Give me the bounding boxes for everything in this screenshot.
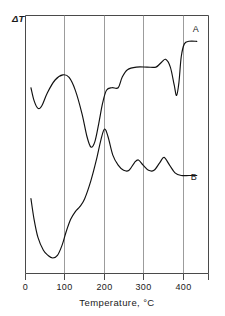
x-tick-label-400: 400 [175,282,191,292]
curve-label-b: B [191,172,197,182]
curve-a-path [31,41,197,147]
plot-canvas: ΔT 0 100 200 300 400 Temperature, °C A B [0,0,225,316]
grid-lines [65,16,184,274]
curve-label-a: A [193,24,199,34]
y-axis-label: ΔT [11,13,26,24]
dta-thermogram-figure: ΔT 0 100 200 300 400 Temperature, °C A B [0,0,225,316]
x-axis-ticks [26,274,209,281]
curve-b-path [31,129,197,258]
x-tick-label-300: 300 [135,282,151,292]
x-axis-title: Temperature, °C [79,297,154,308]
x-tick-label-100: 100 [56,282,72,292]
x-tick-label-0: 0 [23,282,28,292]
x-tick-label-200: 200 [96,282,112,292]
